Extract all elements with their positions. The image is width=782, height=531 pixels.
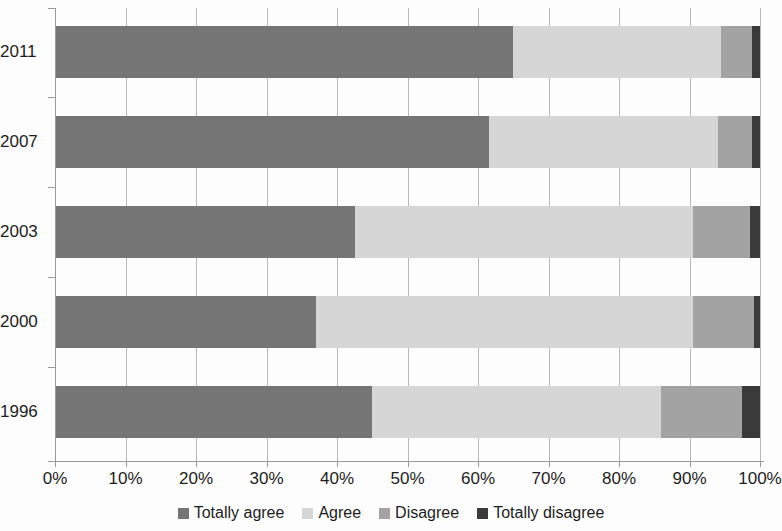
x-tick-50pct bbox=[408, 461, 409, 467]
y-axis-line bbox=[55, 8, 56, 461]
bar-segment bbox=[750, 206, 760, 258]
legend-item[interactable]: Agree bbox=[302, 505, 361, 521]
y-axis-category-label: 2007 bbox=[0, 133, 46, 150]
bar-segment bbox=[752, 26, 760, 78]
x-tick-100pct bbox=[760, 461, 761, 467]
x-axis-tick-label: 30% bbox=[249, 470, 283, 487]
y-tick-bound bbox=[48, 461, 55, 462]
x-axis-tick-label: 50% bbox=[390, 470, 424, 487]
bar-segment bbox=[752, 116, 760, 168]
x-tick-10pct bbox=[126, 461, 127, 467]
x-tick-70pct bbox=[549, 461, 550, 467]
x-tick-0pct bbox=[55, 461, 56, 467]
legend-item[interactable]: Disagree bbox=[379, 505, 459, 521]
x-axis-tick-label: 10% bbox=[108, 470, 142, 487]
bar-segment bbox=[55, 386, 372, 438]
legend-label: Totally disagree bbox=[493, 505, 604, 521]
bar-segment bbox=[372, 386, 661, 438]
bar-segment bbox=[721, 26, 752, 78]
y-tick-bound bbox=[48, 8, 55, 9]
bar-segment bbox=[55, 206, 355, 258]
x-axis-tick-label: 80% bbox=[602, 470, 636, 487]
x-axis-tick-label: 20% bbox=[179, 470, 213, 487]
y-axis-category-label: 2011 bbox=[0, 43, 46, 60]
bar-row bbox=[55, 206, 760, 258]
bar-segment bbox=[55, 116, 489, 168]
bar-segment bbox=[718, 116, 752, 168]
legend-label: Disagree bbox=[395, 505, 459, 521]
legend-swatch-icon bbox=[379, 508, 390, 519]
x-axis-tick-label: 40% bbox=[320, 470, 354, 487]
y-tick bbox=[48, 277, 55, 278]
bar-row bbox=[55, 26, 760, 78]
gridline-100pct bbox=[760, 8, 761, 461]
bar-row bbox=[55, 296, 760, 348]
x-axis-line bbox=[48, 461, 764, 462]
y-axis-category-label: 1996 bbox=[0, 403, 46, 420]
x-axis-tick-label: 0% bbox=[43, 470, 68, 487]
bar-segment bbox=[316, 296, 693, 348]
x-tick-40pct bbox=[337, 461, 338, 467]
y-tick bbox=[48, 187, 55, 188]
y-tick bbox=[48, 367, 55, 368]
legend-label: Agree bbox=[318, 505, 361, 521]
bar-segment bbox=[489, 116, 718, 168]
bar-segment bbox=[754, 296, 760, 348]
legend-swatch-icon bbox=[477, 508, 488, 519]
legend-swatch-icon bbox=[302, 508, 313, 519]
x-axis-tick-label: 90% bbox=[672, 470, 706, 487]
bar-row bbox=[55, 386, 760, 438]
y-tick bbox=[48, 97, 55, 98]
legend-item[interactable]: Totally agree bbox=[178, 505, 285, 521]
x-tick-90pct bbox=[690, 461, 691, 467]
bar-segment bbox=[355, 206, 693, 258]
chart-legend: Totally agreeAgreeDisagreeTotally disagr… bbox=[0, 505, 782, 521]
bar-segment bbox=[693, 296, 754, 348]
y-axis-category-label: 2003 bbox=[0, 223, 46, 240]
bar-segment bbox=[513, 26, 721, 78]
bar-segment bbox=[55, 26, 513, 78]
stacked-bar-chart: 20112007200320001996 0%10%20%30%40%50%60… bbox=[0, 0, 782, 531]
x-tick-80pct bbox=[619, 461, 620, 467]
x-axis-tick-label: 70% bbox=[531, 470, 565, 487]
bar-segment bbox=[55, 296, 316, 348]
y-axis-category-label: 2000 bbox=[0, 313, 46, 330]
x-tick-20pct bbox=[196, 461, 197, 467]
x-tick-60pct bbox=[478, 461, 479, 467]
x-axis-tick-label: 100% bbox=[738, 470, 781, 487]
x-tick-30pct bbox=[267, 461, 268, 467]
bar-segment bbox=[742, 386, 760, 438]
bar-row bbox=[55, 116, 760, 168]
bar-segment bbox=[661, 386, 742, 438]
legend-swatch-icon bbox=[178, 508, 189, 519]
plot-area bbox=[55, 8, 760, 461]
x-axis-tick-label: 60% bbox=[461, 470, 495, 487]
bar-segment bbox=[693, 206, 750, 258]
legend-item[interactable]: Totally disagree bbox=[477, 505, 604, 521]
legend-label: Totally agree bbox=[194, 505, 285, 521]
